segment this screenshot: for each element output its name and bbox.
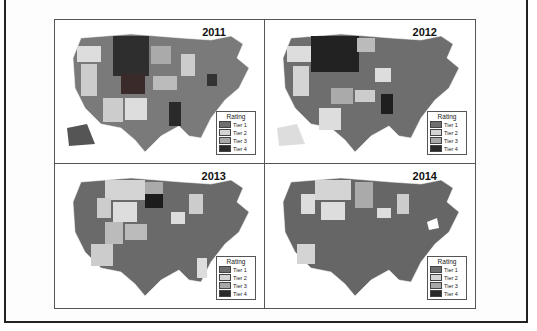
choropleth-grid: 2011 Rating Tier 1 Tier 2 Tier 3 Tier 4 …	[54, 19, 476, 309]
legend: Rating Tier 1 Tier 2 Tier 3 Tier 4	[216, 111, 256, 155]
legend: Rating Tier 1 Tier 2 Tier 3 Tier 4	[216, 256, 256, 300]
legend: Rating Tier 1 Tier 2 Tier 3 Tier 4	[427, 111, 467, 155]
map-panel-2013: 2013 Rating Tier 1 Tier 2 Tier 3 Tier 4	[55, 164, 265, 308]
legend: Rating Tier 1 Tier 2 Tier 3 Tier 4	[427, 256, 467, 300]
map-panel-2012: 2012 Rating Tier 1 Tier 2 Tier 3 Tier 4	[265, 20, 475, 164]
map-panel-2011: 2011 Rating Tier 1 Tier 2 Tier 3 Tier 4	[55, 20, 265, 164]
map-panel-2014: 2014 Rating Tier 1 Tier 2 Tier 3 Tier 4	[265, 164, 475, 308]
